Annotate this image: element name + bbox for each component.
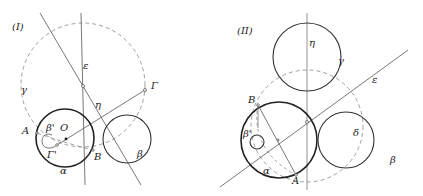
label-alpha: α: [263, 165, 270, 176]
label-beta: β: [389, 154, 396, 165]
label-alpha: α: [60, 165, 67, 176]
point-eta-epsilon: [306, 121, 309, 124]
label-gamma-circle: γ: [21, 84, 27, 95]
label-b: B: [93, 151, 101, 162]
label-b: B: [247, 94, 255, 105]
circle-beta-prime: [42, 134, 57, 148]
line-gamma-prime-to-gamma: [57, 90, 145, 145]
label-beta-prime: β': [45, 122, 55, 133]
label-gamma-prime: Γ': [46, 149, 57, 160]
figure-2-title: (II): [237, 25, 253, 36]
point-gamma-prime: [56, 144, 59, 147]
label-delta: δ: [353, 127, 359, 138]
label-gamma-point: Γ: [150, 80, 159, 91]
point-o: [65, 138, 68, 141]
circle-beta: [103, 115, 151, 163]
point-gamma: [144, 89, 147, 92]
figure-1: (I) ε η γ Γ A β' O Γ' B α β: [12, 13, 159, 185]
label-a: A: [291, 175, 299, 186]
point-eta-epsilon: [82, 85, 85, 88]
circle-beta: [318, 112, 374, 168]
label-o: O: [60, 122, 68, 133]
geometry-diagram: (I) ε η γ Γ A β' O Γ' B α β (II): [0, 0, 423, 196]
label-eta: η: [95, 99, 101, 110]
label-gamma: γ: [338, 55, 344, 66]
figure-1-title: (I): [12, 21, 24, 32]
label-beta: β: [136, 148, 143, 159]
circle-alpha: [36, 109, 94, 167]
label-epsilon: ε: [83, 60, 88, 71]
label-eta: η: [309, 37, 315, 48]
point-center-alpha: [277, 139, 279, 141]
point-a: [36, 132, 38, 134]
point-b: [257, 104, 260, 107]
figure-2: (II) η γ ε B β' δ α A β: [220, 13, 408, 190]
label-epsilon: ε: [372, 74, 377, 85]
label-a: A: [21, 125, 29, 136]
label-beta-prime: β': [242, 128, 252, 139]
